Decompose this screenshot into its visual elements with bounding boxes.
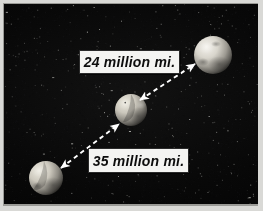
scene-graphics [4,4,258,204]
upper-right-planet [194,36,232,74]
planet-distance-figure: 24 million mi. 35 million mi. [0,0,263,211]
lower-distance-label: 35 million mi. [88,148,189,173]
upper-distance-label: 24 million mi. [79,50,180,74]
space-background: 24 million mi. 35 million mi. [4,4,258,204]
lower-left-planet [29,161,63,195]
